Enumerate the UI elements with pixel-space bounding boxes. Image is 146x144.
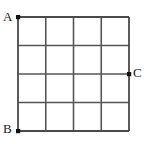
point-marker-a-dot <box>16 15 20 19</box>
point-label-a: A <box>3 10 12 23</box>
grid-lattice-svg <box>0 0 146 144</box>
point-marker-b-dot <box>16 129 20 133</box>
point-label-c: C <box>133 66 142 79</box>
grid-diagram-figure: A B C <box>0 0 146 144</box>
point-label-b: B <box>3 122 12 135</box>
point-marker-c-dot <box>127 72 131 76</box>
